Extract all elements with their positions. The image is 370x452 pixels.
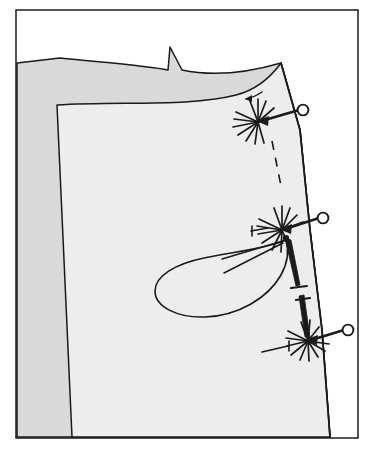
pin-bottom-head bbox=[343, 325, 354, 336]
illustration-page: Pinning the side seam Two fabric layers … bbox=[0, 0, 370, 452]
sewing-diagram bbox=[0, 0, 370, 452]
pin-top-head bbox=[298, 105, 309, 116]
pin-middle-head bbox=[318, 213, 329, 224]
